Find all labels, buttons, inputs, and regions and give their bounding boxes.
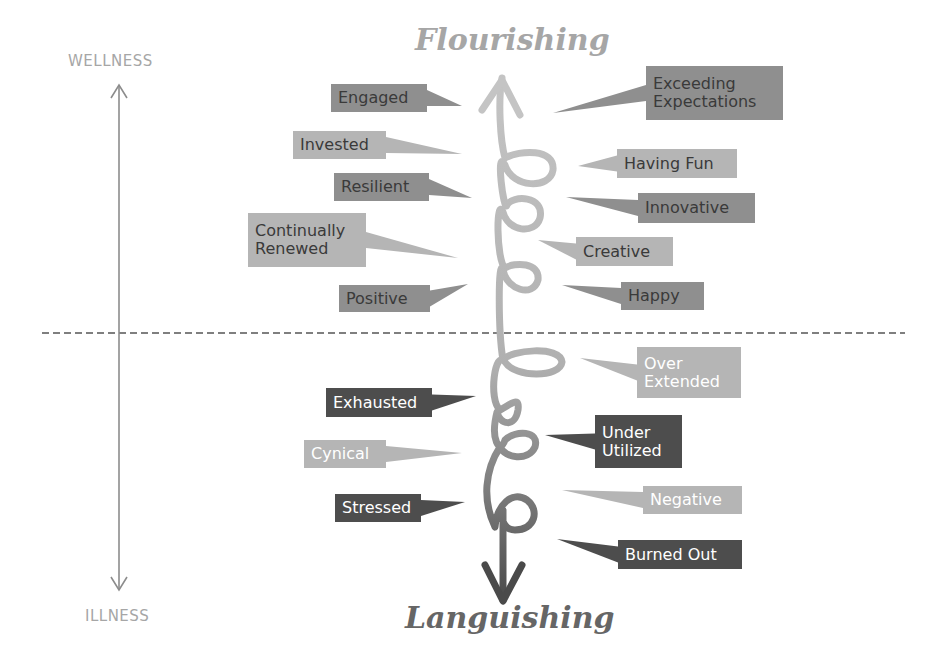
label-burned-out: Burned Out xyxy=(618,540,742,569)
innovative-pointer xyxy=(566,197,638,216)
spiral-arrow-icon xyxy=(482,78,562,601)
label-invested: Invested xyxy=(293,131,386,159)
label-text: Expectations xyxy=(653,93,776,111)
stressed-pointer xyxy=(421,500,465,516)
engaged-pointer xyxy=(427,90,462,106)
label-positive: Positive xyxy=(339,285,430,312)
label-engaged: Engaged xyxy=(331,84,427,112)
positive-pointer xyxy=(430,284,468,307)
wellness-illness-axis xyxy=(111,85,127,590)
burned-out-pointer xyxy=(557,539,618,563)
diagram-graphics xyxy=(0,0,943,668)
wellness-label: WELLNESS xyxy=(68,52,153,70)
label-text: Continually xyxy=(255,222,359,240)
label-text: Cynical xyxy=(311,445,379,463)
label-text: Invested xyxy=(300,136,379,154)
label-text: Burned Out xyxy=(625,546,735,564)
having-fun-pointer xyxy=(578,156,617,172)
label-stressed: Stressed xyxy=(335,494,421,522)
label-text: Exceeding xyxy=(653,75,776,93)
label-text: Negative xyxy=(650,491,735,509)
label-text: Innovative xyxy=(645,199,748,217)
label-negative: Negative xyxy=(643,486,742,514)
label-text: Happy xyxy=(628,287,697,305)
continually-renewed-pointer xyxy=(366,232,458,258)
label-over-extended: OverExtended xyxy=(637,347,741,398)
languishing-title: Languishing xyxy=(405,600,614,635)
label-continually-renewed: ContinuallyRenewed xyxy=(248,213,366,267)
flourishing-title: Flourishing xyxy=(415,22,610,57)
label-resilient: Resilient xyxy=(334,173,429,201)
label-innovative: Innovative xyxy=(638,193,755,223)
under-utilized-pointer xyxy=(545,434,595,450)
exceeding-expectations-pointer xyxy=(553,85,646,113)
label-happy: Happy xyxy=(621,282,704,310)
label-cynical: Cynical xyxy=(304,440,386,468)
happy-pointer xyxy=(562,285,621,304)
label-text: Having Fun xyxy=(624,155,730,173)
label-under-utilized: UnderUtilized xyxy=(595,415,682,468)
resilient-pointer xyxy=(429,179,472,198)
exhausted-pointer xyxy=(432,395,476,411)
label-text: Extended xyxy=(644,373,734,391)
over-extended-pointer xyxy=(580,358,637,381)
label-text: Resilient xyxy=(341,178,422,196)
creative-pointer xyxy=(538,240,576,260)
wellness-diagram: WELLNESS ILLNESS Flourishing Languishing… xyxy=(0,0,943,668)
negative-pointer xyxy=(562,490,643,508)
label-text: Engaged xyxy=(338,89,420,107)
label-exceeding-expectations: ExceedingExpectations xyxy=(646,66,783,120)
label-text: Positive xyxy=(346,290,423,308)
label-text: Creative xyxy=(583,243,666,261)
label-text: Renewed xyxy=(255,240,359,258)
invested-pointer xyxy=(386,137,462,154)
label-having-fun: Having Fun xyxy=(617,149,737,178)
cynical-pointer xyxy=(386,446,462,462)
label-creative: Creative xyxy=(576,237,673,266)
label-text: Stressed xyxy=(342,499,414,517)
label-exhausted: Exhausted xyxy=(326,388,432,417)
label-text: Exhausted xyxy=(333,394,425,412)
label-text: Over xyxy=(644,355,734,373)
label-text: Utilized xyxy=(602,442,675,460)
illness-label: ILLNESS xyxy=(85,607,149,625)
label-text: Under xyxy=(602,424,675,442)
